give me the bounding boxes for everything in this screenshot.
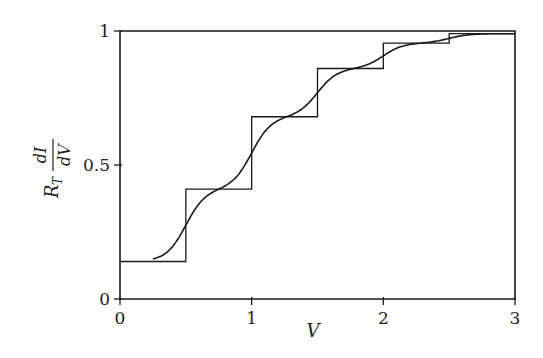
y-label-subscript: T (51, 176, 65, 185)
y-axis-label: R T dI dV (31, 139, 74, 199)
y-label-denominator: dV (55, 143, 74, 166)
smooth-series (153, 34, 515, 259)
y-tick-label: 1 (99, 21, 110, 41)
x-tick-label: 2 (378, 308, 389, 328)
x-tick-label: 1 (246, 308, 257, 328)
tick-labels: 012300.51 (83, 21, 520, 328)
y-tick-label: 0.5 (83, 155, 110, 175)
ticks (114, 31, 515, 305)
x-tick-label: 3 (510, 308, 521, 328)
step-series (120, 34, 515, 262)
x-tick-label: 0 (115, 308, 126, 328)
y-label-numerator: dI (31, 146, 50, 163)
chart: 012300.51 V R T dI dV (0, 0, 543, 358)
x-axis-label: V (307, 320, 322, 341)
y-label-prefix: R (41, 184, 62, 199)
y-tick-label: 0 (99, 289, 110, 309)
